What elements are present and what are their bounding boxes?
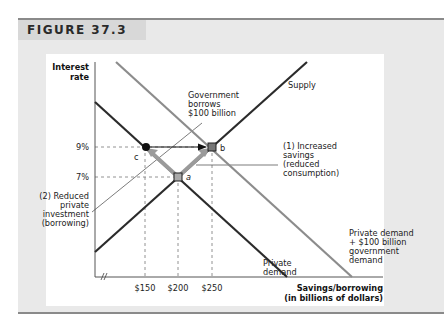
y-tick-9: 9%: [76, 142, 89, 152]
reduced-investment-label-4: (borrowing): [42, 218, 89, 228]
y-axis-label-1: Interest: [52, 62, 89, 72]
point-c: [142, 143, 150, 151]
private-demand-label-2: demand: [263, 267, 297, 277]
point-a-label: a: [186, 172, 191, 182]
increased-savings-label-4: consumption): [283, 168, 339, 178]
x-tick-250: $250: [202, 283, 223, 293]
point-b: [208, 143, 216, 151]
x-tick-150: $150: [135, 283, 156, 293]
y-axis-label-2: rate: [70, 72, 89, 82]
supply-label: Supply: [288, 80, 316, 90]
x-tick-200: $200: [168, 283, 189, 293]
x-axis-label-1: Savings/borrowing: [297, 283, 384, 293]
point-b-label: b: [220, 143, 225, 153]
point-a: [174, 173, 182, 181]
point-c-label: c: [134, 152, 139, 162]
gov-borrows-label-3: $100 billion: [188, 108, 236, 118]
gov-demand-label-4: demand: [349, 255, 383, 265]
chart: Interest rate 9% 7% $150 $200 $250 Savin…: [0, 0, 444, 329]
y-tick-7: 7%: [76, 172, 89, 182]
x-axis-label-2: (in billions of dollars): [284, 293, 383, 303]
